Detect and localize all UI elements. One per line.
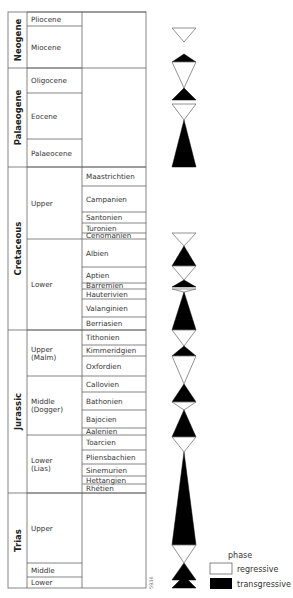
stage-label: Aptien — [86, 271, 109, 280]
stage-cell: Tithonien — [82, 330, 146, 342]
transgressive-triangle-icon — [172, 346, 196, 356]
era-label: Trias — [13, 529, 23, 552]
era-cell-neogene: Neogene — [13, 19, 23, 62]
regressive-triangle-icon — [172, 62, 196, 88]
era-label: Cretaceous — [13, 222, 23, 276]
epoch-cell: Middle — [27, 563, 82, 575]
epoch-label: Lower — [31, 280, 53, 289]
legend-label-regressive: regressive — [237, 565, 278, 574]
epoch-label: (Malm) — [31, 353, 56, 362]
epoch-cell: Middle(Dogger) — [27, 376, 82, 414]
stage-cell: Aalenien — [82, 427, 146, 436]
stage-label: Valanginien — [86, 304, 128, 313]
figure-code: 5936 — [148, 576, 154, 589]
stage-label: Oxfordien — [86, 362, 121, 371]
epoch-label: Middle — [31, 566, 55, 575]
epoch-cell: Upper — [27, 167, 82, 208]
stage-cell: Bathonien — [82, 392, 146, 406]
regressive-triangle-icon — [172, 402, 196, 410]
stage-cell: Toarcien — [82, 435, 146, 447]
stage-label: Bajocien — [86, 415, 117, 424]
stage-label: Pliensbachien — [86, 453, 136, 462]
transgressive-triangle-icon — [172, 292, 196, 330]
transgressive-triangle-icon — [172, 246, 196, 266]
stage-label: Tithonien — [85, 333, 119, 342]
stage-label: Callovien — [86, 380, 119, 389]
legend-title: phase — [228, 551, 252, 560]
stage-cell: Albien — [82, 239, 146, 258]
legend-label-transgressive: transgressive — [237, 580, 291, 589]
epoch-cell: Oligocene — [27, 68, 82, 85]
epoch-cell: Eocene — [27, 93, 82, 121]
epoch-cell: Upper — [27, 493, 82, 533]
stage-cell: Aptien — [82, 267, 146, 280]
stage-cell: Valanginien — [82, 299, 146, 313]
stage-label: Santonien — [86, 213, 122, 222]
transgressive-triangle-icon — [172, 384, 196, 402]
epoch-cell: Lower — [27, 577, 82, 587]
era-label: Neogene — [13, 19, 23, 62]
transgressive-triangle-icon — [172, 410, 196, 437]
transgressive-triangle-icon — [172, 120, 196, 167]
epoch-label: Palaeocene — [31, 149, 73, 158]
regressive-triangle-icon — [172, 266, 196, 280]
stage-label: Toarcien — [85, 438, 116, 447]
stage-cell: Pliensbachien — [82, 450, 146, 462]
transgressive-triangle-icon — [172, 54, 196, 62]
epoch-cell: Upper(Malm) — [27, 330, 82, 362]
stage-label: Maastrichtien — [86, 172, 135, 181]
epoch-label: (Lias) — [31, 464, 51, 473]
legend-swatch-transgressive — [210, 578, 232, 589]
epoch-label: Miocene — [31, 43, 62, 52]
stage-cell: Maastrichtien — [82, 167, 146, 181]
regressive-triangle-icon — [172, 233, 196, 246]
stage-label: Berriasien — [86, 319, 122, 328]
stage-label: Albien — [86, 249, 108, 258]
transgressive-triangle-icon — [172, 88, 196, 100]
stage-label: Aalenien — [86, 427, 117, 436]
era-label: Jurassic — [13, 393, 23, 431]
stratigraphy-table: NeogenePalaeogeneCretaceousJurassicTrias… — [8, 12, 146, 588]
stage-cell: Callovien — [82, 376, 146, 389]
stage-cell: Hauterivien — [82, 289, 146, 299]
stratigraphic-diagram: NeogenePalaeogeneCretaceousJurassicTrias… — [0, 0, 293, 598]
era-cell-trias: Trias — [8, 493, 146, 552]
regressive-triangle-icon — [172, 545, 196, 563]
epoch-cell: Miocene — [27, 26, 82, 52]
regressive-triangle-icon — [172, 104, 196, 120]
epoch-label: Upper — [31, 524, 53, 533]
stage-cell: Rhétien — [82, 484, 146, 493]
legend-swatch-regressive — [210, 563, 232, 574]
stage-cell: Berriasien — [82, 317, 146, 328]
stage-label: Hauterivien — [86, 290, 128, 299]
epoch-label: Pliocene — [31, 15, 62, 24]
stage-label: Kimmeridgien — [86, 346, 136, 355]
stage-label: Campanien — [86, 195, 127, 204]
legend: phase regressive transgressive — [210, 551, 291, 589]
transgressive-triangle-icon — [172, 280, 196, 287]
transgressive-triangle-icon — [172, 452, 196, 545]
table-frame — [8, 12, 146, 588]
regressive-triangle-icon — [172, 28, 196, 42]
epoch-cell: Lower — [27, 239, 82, 289]
epoch-cell: Palaeocene — [27, 139, 82, 158]
epoch-label: (Dogger) — [31, 405, 63, 414]
stage-cell: Campanien — [82, 186, 146, 204]
stage-label: Sinemurien — [86, 466, 127, 475]
epoch-label: Lower — [31, 578, 53, 587]
regressive-triangle-icon — [172, 330, 196, 346]
epoch-label: Upper — [31, 199, 53, 208]
era-label: Palaeogene — [13, 89, 23, 145]
epoch-cell: Pliocene — [27, 12, 82, 24]
era-cell-cretaceous: Cretaceous — [8, 167, 146, 275]
phase-column — [172, 28, 196, 588]
epoch-cell: Lower(Lias) — [27, 435, 82, 473]
stage-cell: Oxfordien — [82, 356, 146, 371]
regressive-triangle-icon — [172, 437, 196, 452]
era-cell-palaeogene: Palaeogene — [8, 68, 146, 145]
stage-cell: Bajocien — [82, 410, 146, 424]
epoch-label: Oligocene — [31, 76, 68, 85]
stage-cell: Sinemurien — [82, 464, 146, 475]
stage-label: Rhétien — [86, 484, 114, 493]
stage-cell: Kimmeridgien — [82, 345, 146, 355]
